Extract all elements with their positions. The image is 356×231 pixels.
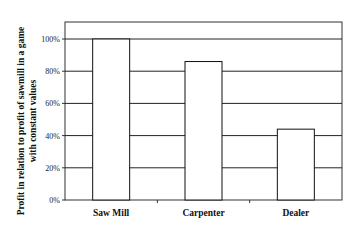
y-tick-label: 40% (45, 132, 60, 141)
y-tick-label: 0% (49, 196, 60, 205)
x-tick-label: Carpenter (182, 208, 225, 218)
y-axis-ticks: 0%20%40%60%80%100% (41, 35, 65, 205)
x-axis-labels: Saw MillCarpenterDealer (93, 200, 310, 218)
y-axis-label-line-2: with constant values (28, 80, 38, 163)
bar-dealer (277, 129, 314, 200)
x-tick-label: Saw Mill (93, 208, 130, 218)
y-tick-label: 80% (45, 67, 60, 76)
x-tick-label: Dealer (282, 208, 310, 218)
bar-chart: 0%20%40%60%80%100% Saw MillCarpenterDeal… (0, 0, 356, 231)
y-tick-label: 100% (41, 35, 60, 44)
y-tick-label: 60% (45, 99, 60, 108)
y-axis-label: Profit in relation to profit of sawmill … (16, 27, 38, 216)
y-axis-label-line-1: Profit in relation to profit of sawmill … (16, 27, 26, 216)
y-tick-label: 20% (45, 164, 60, 173)
bar-saw-mill (93, 39, 130, 200)
bar-carpenter (185, 62, 222, 200)
bars (93, 39, 315, 200)
